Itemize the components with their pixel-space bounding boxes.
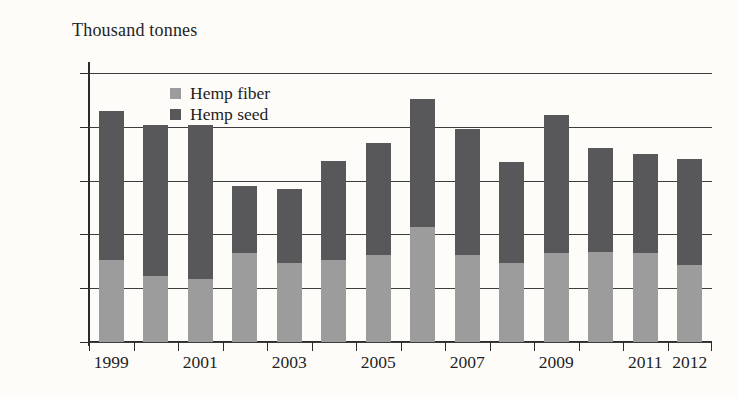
bar-segment-hemp-seed: [143, 125, 168, 277]
x-tick-label: 2012: [672, 352, 707, 373]
legend-item-hemp-fiber: Hemp fiber: [170, 84, 270, 102]
bar-segment-hemp-seed: [455, 129, 480, 255]
bar-segment-hemp-seed: [633, 154, 658, 253]
stacked-bar: [143, 125, 168, 342]
bar-segment-hemp-fiber: [188, 279, 213, 342]
stacked-bar: [677, 159, 702, 342]
x-tick-mark: [534, 342, 535, 351]
x-tick-mark: [356, 342, 357, 351]
chart-legend: Hemp fiber Hemp seed: [170, 84, 270, 124]
x-tick-mark: [312, 342, 313, 351]
x-tick-mark: [445, 342, 446, 351]
stacked-bar: [455, 129, 480, 342]
legend-item-hemp-seed: Hemp seed: [170, 105, 270, 123]
x-tick-label: 2003: [272, 352, 307, 373]
stacked-bar: [366, 143, 391, 342]
stacked-bar: [277, 189, 302, 342]
bar-slot: [579, 73, 624, 342]
x-tick-mark: [223, 342, 224, 351]
axis-title: Thousand tonnes: [72, 20, 197, 41]
x-tick-mark: [711, 342, 712, 351]
hemp-production-chart: Thousand tonnes 050200150200250 19992001…: [0, 0, 738, 399]
bar-segment-hemp-fiber: [499, 263, 524, 342]
bar-slot: [490, 73, 535, 342]
x-tick-mark: [134, 342, 135, 351]
bar-slot: [89, 73, 134, 342]
x-tick-mark: [668, 342, 669, 351]
stacked-bar: [321, 161, 346, 342]
stacked-bar: [232, 186, 257, 342]
x-tick-label: 2005: [361, 352, 396, 373]
bar-slot: [668, 73, 713, 342]
bar-segment-hemp-fiber: [232, 253, 257, 342]
x-tick-mark: [623, 342, 624, 351]
bar-slot: [623, 73, 668, 342]
bar-segment-hemp-fiber: [633, 253, 658, 342]
legend-swatch-hemp-fiber: [170, 88, 181, 99]
bar-segment-hemp-seed: [499, 162, 524, 263]
stacked-bar: [410, 99, 435, 342]
x-tick-label: 2011: [628, 352, 662, 373]
legend-label-hemp-seed: Hemp seed: [190, 105, 268, 123]
x-tick-mark: [89, 342, 90, 351]
bar-segment-hemp-fiber: [588, 252, 613, 342]
stacked-bar: [544, 115, 569, 342]
bar-segment-hemp-seed: [588, 148, 613, 251]
bar-segment-hemp-seed: [410, 99, 435, 227]
stacked-bar: [188, 125, 213, 342]
bar-segment-hemp-seed: [544, 115, 569, 253]
x-tick-mark: [490, 342, 491, 351]
legend-label-hemp-fiber: Hemp fiber: [190, 84, 270, 102]
bar-segment-hemp-fiber: [366, 255, 391, 342]
stacked-bar: [99, 111, 124, 342]
x-tick-label: 1999: [94, 352, 129, 373]
y-tick-mark: [80, 234, 89, 235]
bar-segment-hemp-seed: [321, 161, 346, 260]
y-tick-mark: [80, 127, 89, 128]
bar-segment-hemp-fiber: [321, 260, 346, 342]
bar-segment-hemp-seed: [99, 111, 124, 261]
x-tick-label: 2001: [183, 352, 218, 373]
y-tick-mark: [80, 73, 89, 74]
stacked-bar: [588, 148, 613, 342]
y-tick-mark: [80, 288, 89, 289]
bar-segment-hemp-fiber: [410, 227, 435, 342]
y-tick-mark: [80, 342, 89, 343]
x-axis-ticks: [89, 342, 712, 352]
bar-slot: [312, 73, 357, 342]
x-tick-mark: [401, 342, 402, 351]
bar-slot: [267, 73, 312, 342]
stacked-bar: [499, 162, 524, 342]
bar-segment-hemp-fiber: [143, 276, 168, 342]
bar-segment-hemp-seed: [232, 186, 257, 253]
bar-segment-hemp-seed: [677, 159, 702, 264]
bar-segment-hemp-seed: [188, 125, 213, 279]
y-tick-mark: [80, 181, 89, 182]
x-axis-labels: 19992001200320052007200920112012: [89, 352, 712, 382]
bar-slot: [356, 73, 401, 342]
x-tick-label: 2009: [539, 352, 574, 373]
bar-segment-hemp-fiber: [544, 253, 569, 342]
legend-swatch-hemp-seed: [170, 109, 181, 120]
bar-slot: [534, 73, 579, 342]
bar-segment-hemp-fiber: [677, 265, 702, 342]
stacked-bar: [633, 154, 658, 342]
bar-slot: [445, 73, 490, 342]
bar-segment-hemp-fiber: [277, 263, 302, 342]
bar-slot: [401, 73, 446, 342]
bar-segment-hemp-seed: [277, 189, 302, 263]
x-tick-mark: [178, 342, 179, 351]
bar-segment-hemp-fiber: [455, 255, 480, 342]
bar-segment-hemp-fiber: [99, 260, 124, 342]
bar-segment-hemp-seed: [366, 143, 391, 255]
x-tick-label: 2007: [450, 352, 485, 373]
x-tick-mark: [267, 342, 268, 351]
x-tick-mark: [579, 342, 580, 351]
